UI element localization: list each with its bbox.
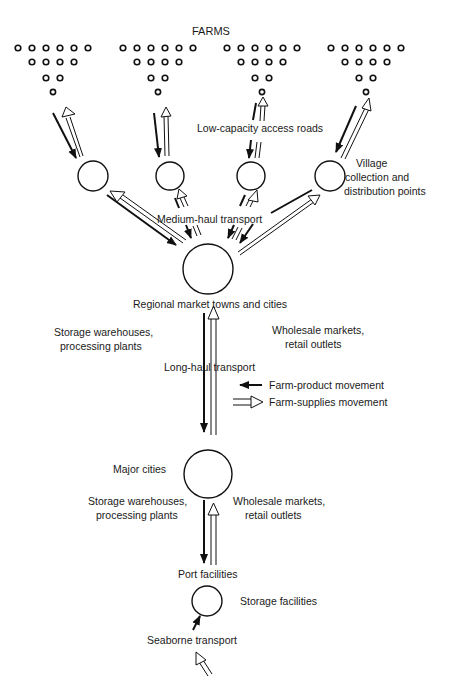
farm-icon bbox=[29, 59, 35, 65]
farm-icon bbox=[280, 59, 286, 65]
farm-icon bbox=[50, 89, 55, 94]
village-label-line1: Village bbox=[356, 157, 387, 169]
farm-icon bbox=[176, 59, 182, 65]
wholesale-label-2-line1: Wholesale markets, bbox=[233, 495, 325, 507]
farm-icon bbox=[15, 45, 21, 51]
village-point-3 bbox=[237, 162, 265, 190]
access-roads-label: Low-capacity access roads bbox=[197, 122, 323, 134]
seaborne-label: Seaborne transport bbox=[147, 634, 237, 646]
farm-icon bbox=[155, 89, 160, 94]
farm-icon bbox=[29, 45, 35, 51]
wholesale-label-1-line2: retail outlets bbox=[285, 338, 342, 350]
farm-icon bbox=[71, 45, 77, 51]
wholesale-label-1-line1: Wholesale markets, bbox=[272, 324, 364, 336]
farm-icon bbox=[266, 59, 272, 65]
village-point-2 bbox=[156, 162, 184, 190]
village-point-4 bbox=[315, 161, 345, 191]
farm-icon bbox=[162, 45, 168, 51]
farm-icon bbox=[280, 45, 286, 51]
storage-label-1-line1: Storage warehouses, bbox=[54, 326, 153, 338]
farm-icon bbox=[370, 59, 376, 65]
storage-label-2-line2: processing plants bbox=[96, 509, 178, 521]
hollow-arrow-icon bbox=[233, 399, 251, 405]
farm-icon bbox=[342, 59, 348, 65]
farm-icon bbox=[252, 59, 258, 65]
farm-icon bbox=[259, 89, 264, 94]
farm-icon bbox=[57, 59, 63, 65]
farm-icon bbox=[190, 45, 196, 51]
storage-label-1-line2: processing plants bbox=[60, 340, 142, 352]
major-to-port-arrows bbox=[204, 500, 219, 565]
farm-icon bbox=[148, 75, 154, 81]
farm-icon bbox=[57, 45, 63, 51]
village-points bbox=[78, 161, 345, 191]
farm-icon bbox=[85, 45, 91, 51]
village-point-1 bbox=[78, 161, 108, 191]
agricultural-distribution-diagram: FARMS bbox=[0, 0, 453, 682]
farm-icon bbox=[176, 45, 182, 51]
legend-item-supplies: Farm-supplies movement bbox=[233, 396, 388, 408]
farm-icon bbox=[162, 75, 168, 81]
farms-title: FARMS bbox=[192, 25, 230, 37]
storage-facilities-label: Storage facilities bbox=[240, 595, 317, 607]
farm-clusters bbox=[15, 45, 404, 94]
farm-cluster-4 bbox=[328, 45, 404, 94]
farm-icon bbox=[363, 89, 368, 94]
legend-item-product: Farm-product movement bbox=[240, 379, 384, 391]
farm-icon bbox=[356, 75, 362, 81]
legend-product-label: Farm-product movement bbox=[269, 379, 384, 391]
farm-icon bbox=[384, 59, 390, 65]
farm-cluster-1 bbox=[15, 45, 91, 94]
farm-cluster-3 bbox=[224, 45, 300, 94]
farm-icon bbox=[134, 45, 140, 51]
long-haul-label: Long-haul transport bbox=[164, 361, 255, 373]
village-label-line3: distribution points bbox=[344, 185, 426, 197]
farm-icon bbox=[356, 59, 362, 65]
farm-icon bbox=[252, 75, 258, 81]
farm-icon bbox=[224, 45, 230, 51]
regional-label: Regional market towns and cities bbox=[133, 298, 287, 310]
port-label: Port facilities bbox=[178, 568, 238, 580]
medium-haul-label: Medium-haul transport bbox=[157, 213, 262, 225]
farm-icon bbox=[57, 75, 63, 81]
farm-icon bbox=[148, 45, 154, 51]
farm-cluster-2 bbox=[120, 45, 196, 94]
farm-icon bbox=[370, 75, 376, 81]
farm-icon bbox=[370, 45, 376, 51]
farm-icon bbox=[148, 59, 154, 65]
farm-icon bbox=[342, 45, 348, 51]
farm-icon bbox=[328, 45, 334, 51]
farm-icon bbox=[238, 45, 244, 51]
major-cities-label: Major cities bbox=[113, 463, 166, 475]
farm-icon bbox=[43, 75, 49, 81]
farm-icon bbox=[43, 59, 49, 65]
legend-supplies-label: Farm-supplies movement bbox=[269, 396, 388, 408]
seaborne-arrows bbox=[193, 616, 212, 676]
farm-icon bbox=[384, 45, 390, 51]
farm-icon bbox=[266, 45, 272, 51]
farm-icon bbox=[120, 45, 126, 51]
farm-icon bbox=[266, 75, 272, 81]
village-label-line2: collection and bbox=[345, 171, 409, 183]
farm-icon bbox=[162, 59, 168, 65]
farm-icon bbox=[71, 59, 77, 65]
port-node bbox=[192, 586, 222, 616]
farm-icon bbox=[252, 45, 258, 51]
wholesale-label-2-line2: retail outlets bbox=[245, 509, 302, 521]
major-cities-node bbox=[184, 450, 232, 498]
legend: Farm-product movement Farm-supplies move… bbox=[233, 379, 388, 408]
farm-icon bbox=[43, 45, 49, 51]
regional-market-node bbox=[183, 244, 233, 294]
farm-icon bbox=[294, 45, 300, 51]
farm-icon bbox=[134, 59, 140, 65]
storage-label-2-line1: Storage warehouses, bbox=[88, 495, 187, 507]
farm-icon bbox=[356, 45, 362, 51]
farm-icon bbox=[398, 45, 404, 51]
farm-icon bbox=[238, 59, 244, 65]
